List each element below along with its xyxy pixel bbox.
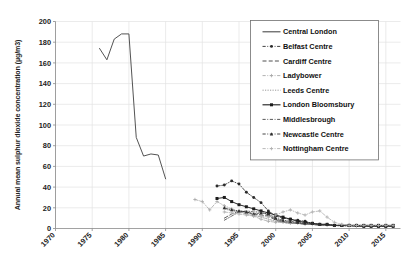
legend-item-label: Belfast Centre: [283, 42, 332, 51]
y-tick-label: 20: [43, 204, 51, 213]
data-point-marker: [245, 205, 248, 208]
x-tick-label: 1990: [186, 231, 204, 249]
data-point-marker: [223, 184, 226, 187]
y-tick-label: 80: [43, 141, 51, 150]
data-point-marker: [230, 200, 233, 203]
data-point-marker: [252, 207, 255, 210]
legend-item-label: Ladybower: [283, 71, 322, 80]
series-central-london: [100, 34, 166, 179]
series-line: [217, 181, 393, 227]
x-tick-label: 2005: [296, 231, 314, 249]
y-tick-label: 160: [39, 59, 51, 68]
y-tick-label: 100: [39, 121, 51, 130]
x-tick-label: 2015: [369, 231, 387, 249]
series-belfast-centre: [216, 179, 395, 227]
y-tick-label: 180: [39, 38, 51, 47]
y-tick-label: 140: [39, 79, 51, 88]
data-point-marker: [238, 183, 241, 186]
legend-item-label: Leeds Centre: [283, 86, 329, 95]
legend-item-label: Central London: [283, 27, 337, 36]
data-point-marker: [223, 196, 226, 199]
data-point-marker: [238, 203, 241, 206]
legend-item-label: Middlesbrough: [283, 115, 335, 124]
y-axis-tick-labels: 020406080100120140160180200: [39, 17, 51, 233]
legend-item-label: Cardiff Centre: [283, 57, 332, 66]
data-point-marker: [215, 197, 218, 200]
x-tick-label: 1985: [149, 231, 167, 249]
y-tick-label: 120: [39, 100, 51, 109]
x-tick-label: 1980: [112, 231, 130, 249]
x-tick-label: 1975: [76, 231, 94, 249]
y-tick-label: 60: [43, 162, 51, 171]
y-tick-label: 40: [43, 183, 51, 192]
x-axis-tick-labels: 1970197519801985199019952000200520102015: [39, 231, 387, 249]
x-tick-label: 1995: [222, 231, 240, 249]
x-tick-label: 1970: [39, 231, 57, 249]
data-point-marker: [252, 196, 255, 199]
data-point-marker: [270, 45, 273, 48]
y-axis-title-text: Annual mean sulphur dioxide concentratio…: [14, 39, 22, 210]
y-tick-label: 200: [39, 17, 51, 26]
chart-container: 020406080100120140160180200 197019751980…: [0, 0, 413, 275]
data-point-marker: [230, 179, 233, 182]
x-tick-label: 2000: [259, 231, 277, 249]
data-point-marker: [245, 191, 248, 194]
series-line: [100, 34, 166, 179]
data-point-marker: [260, 201, 263, 204]
legend-item-label: London Bloomsbury: [283, 100, 355, 109]
legend-item-label: Nottingham Centre: [283, 144, 349, 153]
data-point-marker: [270, 103, 273, 106]
y-axis-title: Annual mean sulphur dioxide concentratio…: [14, 39, 22, 210]
legend-item-label: Newcastle Centre: [283, 130, 344, 139]
x-tick-label: 2010: [333, 231, 351, 249]
data-point-marker: [216, 185, 219, 188]
sulphur-dioxide-line-chart: 020406080100120140160180200 197019751980…: [0, 0, 413, 275]
data-point-marker: [282, 216, 285, 219]
chart-legend[interactable]: Central LondonBelfast CentreCardiff Cent…: [251, 21, 379, 160]
